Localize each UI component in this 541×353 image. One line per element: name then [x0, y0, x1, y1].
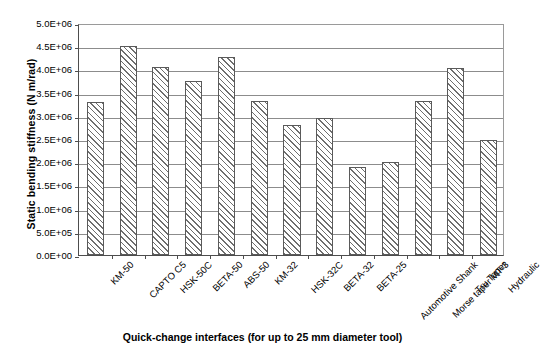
x-axis-tick-label-text: KM-50 [109, 259, 137, 287]
bar [218, 57, 235, 255]
x-axis-tickmark [177, 255, 178, 259]
x-axis-tick-label-text: KM-32 [272, 259, 300, 287]
x-axis-tick-label-text: BETA-50 [210, 259, 245, 294]
y-axis-tick-labels: 0.0E+005.0E+051.0E+061.5E+062.0E+062.5E+… [14, 0, 72, 353]
x-axis-tick-label-text: Hydraulic [505, 259, 541, 295]
bar [87, 102, 104, 255]
x-axis-tickmark [374, 255, 375, 259]
x-axis-tick-label-text: BETA-25 [374, 259, 409, 294]
x-axis-tick-label-text: BETA-32 [341, 259, 376, 294]
x-axis-title: Quick-change interfaces (for up to 25 mm… [0, 331, 525, 343]
x-axis-tickmark [472, 255, 473, 259]
x-axis-tick-label-text: Automotive Shank [418, 259, 480, 321]
y-axis-tick-label: 3.5E+06 [14, 89, 72, 99]
x-axis-tick-label: BETA-32 [341, 259, 376, 294]
x-axis-tick-label-text: HSK-50C [178, 259, 214, 295]
x-axis-tick-label: HSK-32C [309, 259, 345, 295]
x-axis-tickmark [407, 255, 408, 259]
bar [251, 101, 268, 256]
y-axis-tick-label: 0.0E+00 [14, 251, 72, 261]
y-axis-tick-label: 1.5E+06 [14, 181, 72, 191]
y-axis-tick-label: 2.0E+06 [14, 158, 72, 168]
x-axis-tick-label-text: ABS-50 [241, 259, 272, 290]
bar [382, 162, 399, 255]
x-axis-tick-label-text: CAPTO C5 [147, 259, 188, 300]
x-axis-tickmark [341, 255, 342, 259]
x-axis-tick-label: BETA-25 [374, 259, 409, 294]
x-axis-tickmark [439, 255, 440, 259]
x-axis-tick-label: Automotive Shank [418, 259, 480, 321]
x-axis-tick-label: Tru Taper [473, 259, 509, 295]
x-axis-tick-label: KM-50 [109, 259, 137, 287]
x-axis-tick-label-text: Morse taper MT-3 [450, 259, 511, 320]
bars-container [79, 25, 503, 255]
bar [283, 125, 300, 255]
x-axis-tick-label: Hydraulic [505, 259, 541, 295]
bar [185, 81, 202, 255]
bar [349, 167, 366, 255]
x-axis-tick-label: CAPTO C5 [147, 259, 188, 300]
x-axis-tick-label: Morse taper MT-3 [450, 259, 511, 320]
y-axis-tickmark [75, 257, 79, 258]
plot-area [78, 24, 504, 256]
bar [152, 67, 169, 255]
x-axis-tick-label-text: Tru Taper [473, 259, 509, 295]
y-axis-tick-label: 2.5E+06 [14, 135, 72, 145]
x-axis-tickmark [112, 255, 113, 259]
bar [120, 46, 137, 255]
y-axis-tick-label: 5.0E+05 [14, 228, 72, 238]
x-axis-tick-label-text: HSK-32C [309, 259, 345, 295]
x-axis-tickmark [243, 255, 244, 259]
bar [447, 68, 464, 255]
y-axis-tick-label: 1.0E+06 [14, 205, 72, 215]
x-axis-tick-label: HSK-50C [178, 259, 214, 295]
y-axis-tick-label: 5.0E+06 [14, 19, 72, 29]
bar [316, 118, 333, 255]
x-axis-tickmark [308, 255, 309, 259]
x-axis-tick-label: ABS-50 [241, 259, 272, 290]
x-axis-tickmark [276, 255, 277, 259]
bar [415, 101, 432, 255]
x-axis-tick-label: KM-32 [272, 259, 300, 287]
y-axis-tick-label: 3.0E+06 [14, 112, 72, 122]
x-axis-tickmark [210, 255, 211, 259]
x-axis-tick-label: BETA-50 [210, 259, 245, 294]
x-axis-tickmark [145, 255, 146, 259]
y-axis-tick-label: 4.0E+06 [14, 65, 72, 75]
bar [480, 140, 497, 255]
y-axis-tick-label: 4.5E+06 [14, 42, 72, 52]
